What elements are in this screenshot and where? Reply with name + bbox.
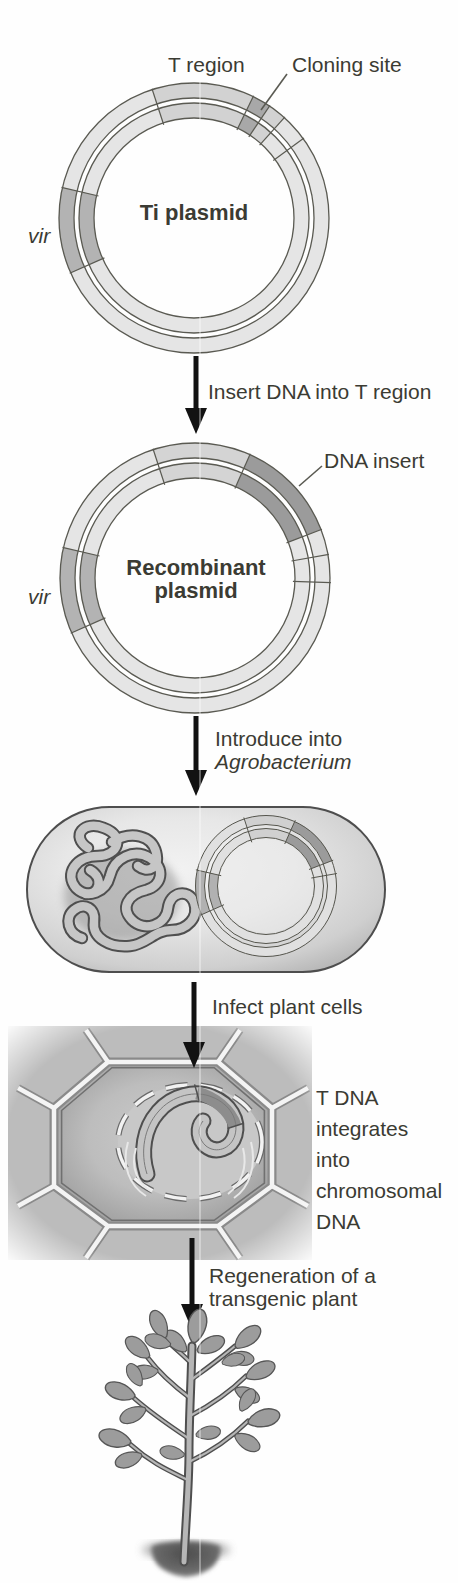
cloning-site-leader-line (261, 74, 287, 110)
vir-label-ti: vir (28, 224, 50, 247)
transgenic-plant-figure (97, 1307, 282, 1577)
step4-label-line2: transgenic plant (209, 1287, 376, 1310)
recombinant-plasmid-title: Recombinant plasmid (126, 556, 265, 602)
scan-artifact-line (199, 0, 201, 1583)
tissue-vignette (8, 1026, 312, 1260)
step2-label-line1: Introduce into (215, 727, 352, 750)
step2-arrow (185, 716, 207, 796)
step4-label-line1: Regeneration of a (209, 1264, 376, 1287)
vir-label-recombinant: vir (28, 585, 50, 608)
t-dna-annotation: T DNA integrates into chromosomal DNA (316, 1082, 442, 1237)
step3-label: Infect plant cells (212, 995, 363, 1018)
t-dna-annotation-line5: DNA (316, 1206, 442, 1237)
ti-plasmid-title: Ti plasmid (140, 201, 248, 224)
t-region-label: T region (168, 53, 245, 76)
t-dna-annotation-line4: chromosomal (316, 1175, 442, 1206)
dna-insert-leader-line (299, 466, 322, 486)
plant-cell-figure (8, 1026, 312, 1260)
step1-label: Insert DNA into T region (208, 380, 431, 403)
dna-insert-label: DNA insert (324, 449, 424, 472)
cloning-site-label: Cloning site (292, 53, 402, 76)
recombinant-title-line1: Recombinant (126, 556, 265, 579)
diagram-artwork (0, 0, 458, 1583)
diagram-canvas: T region Cloning site Ti plasmid vir Ins… (0, 0, 458, 1583)
step1-arrow (185, 356, 207, 434)
step2-label-line2: Agrobacterium (215, 750, 352, 773)
t-dna-annotation-line2: integrates (316, 1113, 442, 1144)
agrobacterium-figure (27, 799, 385, 973)
t-dna-annotation-line1: T DNA (316, 1082, 442, 1113)
step2-label: Introduce into Agrobacterium (215, 727, 352, 773)
step4-label: Regeneration of a transgenic plant (209, 1264, 376, 1310)
recombinant-title-line2: plasmid (126, 579, 265, 602)
t-dna-annotation-line3: into (316, 1144, 442, 1175)
